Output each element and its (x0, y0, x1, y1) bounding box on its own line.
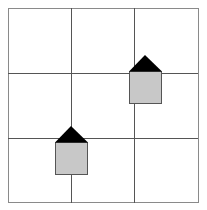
grid-diagram (0, 0, 207, 210)
grid-frame (9, 9, 199, 203)
house-body (130, 72, 162, 104)
house-body (56, 143, 88, 175)
house-roof-icon (129, 55, 162, 72)
house-roof-icon (55, 126, 88, 143)
house-top-right (129, 55, 162, 104)
house-bottom-left (55, 126, 88, 175)
grid (8, 8, 199, 203)
